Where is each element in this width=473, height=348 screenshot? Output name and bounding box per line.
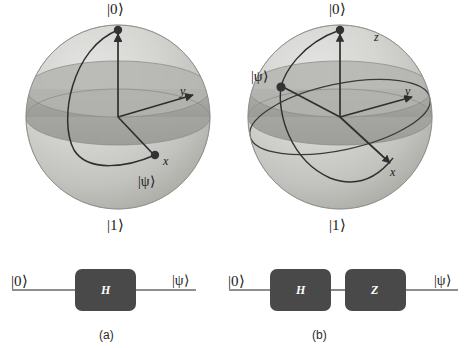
gate-z-b-label: Z [371, 283, 378, 298]
circuit-a-input-label: |0⟩ [11, 274, 28, 289]
circuit-a-output-label: |ψ⟩ [172, 274, 189, 288]
circuit-b [229, 269, 458, 311]
sphere-a-y-axis-label: y [180, 85, 185, 97]
circuit-b-output-label: |ψ⟩ [434, 274, 451, 288]
bloch-sphere-b [243, 25, 437, 209]
sphere-b-x-axis-label: x [390, 166, 395, 178]
north-pole-dot-b [336, 26, 344, 34]
gate-h-b-label: H [296, 283, 305, 298]
caption-a: (a) [99, 329, 114, 341]
sphere-a-north-label: |0⟩ [107, 2, 124, 17]
gate-h-a-label: H [101, 283, 110, 298]
state-vector-dot-a [151, 151, 159, 159]
sphere-b-north-label: |0⟩ [329, 2, 346, 17]
sphere-b-z-axis-label: z [374, 31, 379, 43]
caption-b: (b) [312, 329, 327, 341]
circuit-b-input-label: |0⟩ [228, 274, 245, 289]
bloch-sphere-figure [0, 0, 473, 348]
sphere-b-y-axis-label: y [405, 85, 410, 97]
sphere-a-south-label: |1⟩ [107, 218, 124, 233]
sphere-b-south-label: |1⟩ [329, 218, 346, 233]
state-vector-dot-b [276, 82, 285, 91]
sphere-a-x-axis-label: x [163, 155, 168, 167]
sphere-b-state-label: |ψ⟩ [251, 70, 268, 84]
north-pole-dot-a [114, 26, 122, 34]
bloch-sphere-a [26, 25, 210, 209]
sphere-a-state-label: |ψ⟩ [138, 175, 155, 189]
